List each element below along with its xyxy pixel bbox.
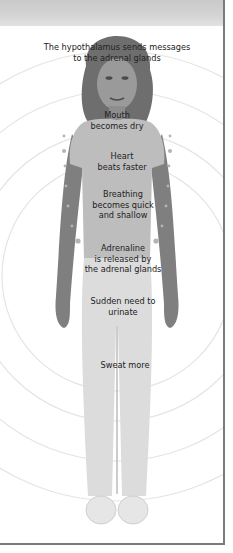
label-adrenaline: Adrenaline is released by the adrenal gl…: [85, 243, 162, 275]
label-line: The hypothalamus sends messages: [44, 42, 190, 53]
label-hypothalamus: The hypothalamus sends messages to the a…: [44, 42, 190, 63]
body-figure-illustration: [0, 26, 223, 543]
label-line: urinate: [91, 307, 156, 318]
frame-border-bottom: [0, 543, 225, 545]
label-line: beats faster: [97, 162, 146, 173]
label-line: becomes quick: [92, 200, 154, 211]
label-line: to the adrenal glands: [44, 53, 190, 64]
label-line: Sudden need to: [91, 296, 156, 307]
label-line: Breathing: [92, 189, 154, 200]
label-line: Heart: [97, 151, 146, 162]
label-line: Adrenaline: [85, 243, 162, 254]
label-line: becomes dry: [90, 121, 143, 132]
label-heart: Heart beats faster: [97, 151, 146, 172]
label-sweat: Sweat more: [101, 360, 150, 371]
label-line: is released by: [85, 254, 162, 265]
label-urinate: Sudden need to urinate: [91, 296, 156, 317]
label-line: the adrenal glands: [85, 264, 162, 275]
label-breathing: Breathing becomes quick and shallow: [92, 189, 154, 221]
frame-border-right: [223, 0, 225, 545]
label-mouth: Mouth becomes dry: [90, 110, 143, 131]
header-band: [0, 0, 223, 26]
label-line: and shallow: [92, 210, 154, 221]
label-line: Mouth: [90, 110, 143, 121]
label-line: Sweat more: [101, 360, 150, 371]
diagram-canvas: The hypothalamus sends messages to the a…: [0, 26, 223, 543]
